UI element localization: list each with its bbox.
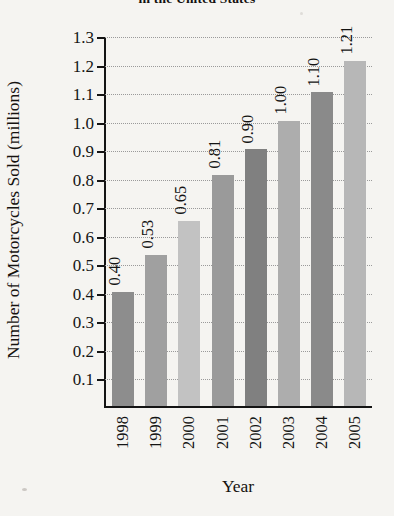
scanned-page: in the United States Number of Motorcycl… xyxy=(0,0,394,516)
scan-speckle xyxy=(22,488,27,491)
y-tick-mark xyxy=(97,379,105,381)
bar xyxy=(311,92,333,406)
x-tick-label: 2005 xyxy=(347,416,364,449)
bar xyxy=(344,61,366,406)
gridline xyxy=(104,66,372,67)
bar xyxy=(145,255,167,406)
y-tick-label: 1.0 xyxy=(73,114,94,131)
bar-value-label: 0.90 xyxy=(239,114,256,143)
bar-value-label: 0.53 xyxy=(140,220,157,249)
bar-value-label: 1.21 xyxy=(339,26,356,55)
y-tick-mark xyxy=(97,66,105,68)
y-tick-label: 1.1 xyxy=(73,86,94,103)
y-axis-title-text: Number of Motorcycles Sold (millions) xyxy=(3,81,24,359)
x-tick-label: 2000 xyxy=(181,416,198,449)
bar xyxy=(112,292,134,406)
chart-title: in the United States xyxy=(0,0,394,4)
y-tick-mark xyxy=(97,123,105,125)
x-tick-label: 2001 xyxy=(214,416,231,449)
y-tick-mark xyxy=(97,37,105,39)
x-tick: 2002 xyxy=(245,408,267,468)
bar xyxy=(212,175,234,406)
x-tick-label: 2002 xyxy=(248,416,265,449)
y-tick-label: 0.7 xyxy=(73,200,94,217)
x-tick-label: 2004 xyxy=(314,416,331,449)
bar-value-label: 1.00 xyxy=(273,86,290,115)
y-tick-label: 1.3 xyxy=(73,29,94,46)
bar xyxy=(278,121,300,406)
x-axis-title: Year xyxy=(104,476,372,497)
bar-value-label: 1.10 xyxy=(306,57,323,86)
x-tick: 2005 xyxy=(344,408,366,468)
y-tick-label: 0.8 xyxy=(73,171,94,188)
y-tick-mark xyxy=(97,237,105,239)
x-tick: 1999 xyxy=(145,408,167,468)
y-tick-label: 0.6 xyxy=(73,228,94,245)
x-tick: 1998 xyxy=(112,408,134,468)
y-tick-mark xyxy=(97,180,105,182)
y-tick-mark xyxy=(97,322,105,324)
y-tick-label: 0.4 xyxy=(73,285,94,302)
y-tick-mark xyxy=(97,94,105,96)
x-tick-label: 2003 xyxy=(281,416,298,449)
bar-value-label: 0.40 xyxy=(107,257,124,286)
x-tick-label: 1998 xyxy=(115,416,132,449)
gridline xyxy=(104,37,372,38)
y-tick-label: 0.1 xyxy=(73,371,94,388)
scan-speckle xyxy=(300,12,303,15)
plot-area: 1.31.21.11.00.90.80.70.60.50.40.30.20.1 … xyxy=(104,37,372,408)
y-tick-label: 0.3 xyxy=(73,314,94,331)
y-tick-mark xyxy=(97,208,105,210)
y-tick-label: 0.9 xyxy=(73,143,94,160)
x-tick: 2000 xyxy=(178,408,200,468)
bar-value-label: 0.65 xyxy=(173,186,190,215)
y-tick-label: 0.2 xyxy=(73,342,94,359)
x-tick: 2003 xyxy=(278,408,300,468)
bar xyxy=(245,149,267,406)
y-axis-title: Number of Motorcycles Sold (millions) xyxy=(0,30,26,410)
x-tick: 2004 xyxy=(311,408,333,468)
y-tick-mark xyxy=(97,351,105,353)
bar-value-label: 0.81 xyxy=(206,140,223,169)
bar xyxy=(178,221,200,407)
x-tick: 2001 xyxy=(212,408,234,468)
y-tick-label: 0.5 xyxy=(73,257,94,274)
x-tick-label: 1999 xyxy=(148,416,165,449)
y-tick-mark xyxy=(97,151,105,153)
y-tick-mark xyxy=(97,294,105,296)
y-tick-label: 1.2 xyxy=(73,57,94,74)
